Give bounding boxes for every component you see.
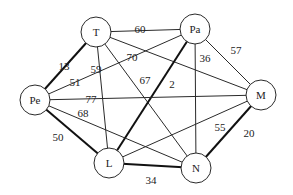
edge-weight-label: 67 — [140, 74, 152, 86]
edge-weight-label: 70 — [127, 51, 139, 63]
graph-diagram: 60135970675123657776850553420 TPaPeMLN — [0, 0, 293, 195]
edge-weight-label: 13 — [59, 60, 71, 72]
node-pa: Pa — [180, 14, 210, 44]
edge-weight-label: 20 — [244, 127, 256, 139]
edge-pe-m — [35, 95, 261, 100]
node-label: T — [93, 26, 100, 38]
edge-weight-label: 59 — [91, 63, 103, 75]
node-label: Pa — [190, 23, 201, 35]
node-m: M — [246, 80, 276, 110]
edge-weight-label: 36 — [200, 52, 212, 64]
edges-layer — [35, 29, 261, 168]
edge-weight-label: 51 — [70, 76, 81, 88]
node-n: N — [181, 153, 211, 183]
edge-pa-n — [195, 29, 196, 168]
edge-pa-l — [109, 29, 195, 163]
edge-weight-label: 57 — [231, 44, 243, 56]
edge-weight-label: 55 — [215, 121, 227, 133]
edge-weight-label: 60 — [135, 23, 147, 35]
edge-weight-label: 2 — [169, 78, 175, 90]
edge-weight-label: 68 — [78, 107, 90, 119]
node-pe: Pe — [20, 85, 50, 115]
node-l: L — [94, 148, 124, 178]
edge-weight-label: 34 — [146, 174, 158, 186]
node-t: T — [81, 17, 111, 47]
edge-weight-label: 50 — [53, 131, 65, 143]
node-label: N — [192, 162, 200, 174]
node-label: Pe — [30, 94, 41, 106]
edge-weight-label: 77 — [86, 93, 98, 105]
nodes-layer: TPaPeMLN — [20, 14, 276, 183]
edge-t-l — [96, 32, 109, 163]
edge-t-m — [96, 32, 261, 95]
node-label: L — [106, 157, 113, 169]
node-label: M — [256, 89, 266, 101]
